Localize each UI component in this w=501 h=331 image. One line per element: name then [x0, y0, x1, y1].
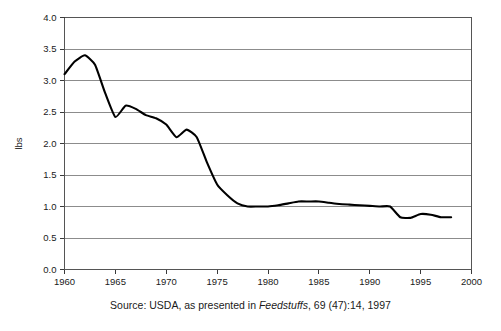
x-tick-label: 1990: [359, 276, 380, 287]
caption-publication: Feedstuffs: [259, 299, 308, 311]
x-tick-label: 1960: [54, 276, 75, 287]
x-tick-label: 1980: [257, 276, 278, 287]
x-tick-label: 1985: [308, 276, 329, 287]
line-chart: 0.00.51.01.52.02.53.03.54.0 196019651970…: [0, 0, 501, 331]
gridlines-group: [65, 18, 472, 270]
x-tick-label: 2000: [461, 276, 482, 287]
y-tick-label: 4.0: [43, 12, 56, 23]
x-tick-marks-group: [65, 270, 472, 275]
y-axis-title-group: lbs: [13, 137, 24, 149]
y-tick-label: 3.5: [43, 43, 56, 54]
y-tick-label: 1.0: [43, 201, 56, 212]
chart-figure: 0.00.51.01.52.02.53.03.54.0 196019651970…: [0, 0, 501, 331]
x-axis-tick-labels-group: 196019651970197519801985199019952000: [54, 276, 482, 287]
data-series-group: [65, 55, 452, 218]
y-tick-marks-group: [60, 18, 65, 270]
x-tick-label: 1970: [156, 276, 177, 287]
caption-suffix: , 69 (47):14, 1997: [308, 299, 391, 311]
y-axis-tick-labels-group: 0.00.51.01.52.02.53.03.54.0: [43, 12, 56, 275]
y-axis-title: lbs: [13, 137, 24, 149]
y-tick-label: 2.0: [43, 138, 56, 149]
caption-prefix: Source: USDA, as presented in: [110, 299, 259, 311]
source-caption: Source: USDA, as presented in Feedstuffs…: [0, 299, 501, 311]
x-tick-label: 1995: [410, 276, 431, 287]
data-line: [65, 55, 452, 218]
y-tick-label: 0.0: [43, 264, 56, 275]
y-tick-label: 0.5: [43, 232, 56, 243]
y-tick-label: 3.0: [43, 75, 56, 86]
y-tick-label: 1.5: [43, 169, 56, 180]
y-tick-label: 2.5: [43, 106, 56, 117]
x-tick-label: 1975: [207, 276, 228, 287]
x-tick-label: 1965: [105, 276, 126, 287]
